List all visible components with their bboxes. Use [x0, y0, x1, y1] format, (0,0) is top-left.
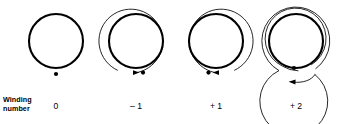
winding-number-row-label-line2: number [3, 105, 30, 113]
core-circle-plus-2 [269, 14, 323, 68]
winding-number-label-plus-1: + 1 [196, 101, 236, 111]
winding-number-label-plus-2: + 2 [276, 101, 316, 111]
winding-loop-plus-2-tail [293, 75, 315, 83]
marker-dot-plus-1 [206, 71, 210, 75]
panel-minus-1-graphic [99, 9, 163, 75]
winding-number-label-minus-1: – 1 [116, 101, 156, 111]
marker-dot-minus-1 [141, 71, 145, 75]
panel-0-graphic [29, 14, 83, 76]
winding-number-figure: Winding number 0 – 1 + 1 + 2 [0, 0, 342, 124]
marker-dot-0 [54, 72, 58, 76]
winding-number-label-0: 0 [36, 101, 76, 111]
marker-dot-plus-2 [292, 66, 296, 70]
arrowhead-minus-1 [133, 70, 139, 75]
core-circle-plus-1 [189, 14, 243, 68]
arrowhead-plus-1 [213, 70, 219, 75]
core-circle-0 [29, 14, 83, 68]
panel-plus-1-graphic [189, 9, 253, 75]
winding-loop-plus-2-inner [265, 8, 326, 71]
arrowhead-plus-2 [289, 79, 296, 84]
core-circle-minus-1 [109, 14, 163, 68]
